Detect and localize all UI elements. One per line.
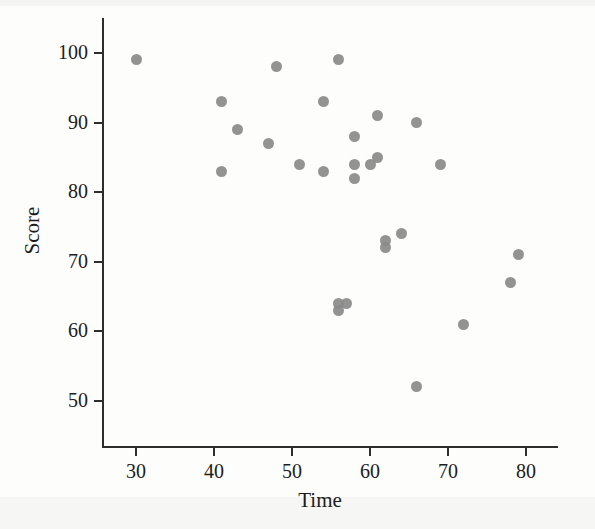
x-tick-50 bbox=[291, 447, 293, 456]
x-tick-label-30: 30 bbox=[113, 461, 159, 481]
data-point bbox=[216, 96, 227, 107]
data-point bbox=[294, 159, 305, 170]
data-point bbox=[411, 117, 422, 128]
y-tick-70 bbox=[94, 261, 103, 263]
y-tick-label-60: 60 bbox=[42, 320, 88, 340]
y-tick-label-100: 100 bbox=[42, 42, 88, 62]
data-point bbox=[333, 54, 344, 65]
data-point bbox=[263, 138, 274, 149]
data-point bbox=[271, 61, 282, 72]
data-point bbox=[318, 96, 329, 107]
y-tick-label-50: 50 bbox=[42, 390, 88, 410]
data-point bbox=[513, 249, 524, 260]
x-tick-label-50: 50 bbox=[269, 461, 315, 481]
x-axis-line bbox=[102, 446, 558, 448]
data-point bbox=[349, 173, 360, 184]
data-point bbox=[349, 131, 360, 142]
y-axis-title: Score bbox=[20, 181, 45, 281]
scatter-plot-figure: 1009080706050 304050607080 Score Time bbox=[0, 0, 595, 529]
y-tick-label-90: 90 bbox=[42, 112, 88, 132]
x-tick-70 bbox=[447, 447, 449, 456]
x-tick-label-40: 40 bbox=[191, 461, 237, 481]
data-point bbox=[131, 54, 142, 65]
data-point bbox=[435, 159, 446, 170]
data-point bbox=[232, 124, 243, 135]
x-tick-label-60: 60 bbox=[347, 461, 393, 481]
y-tick-100 bbox=[94, 52, 103, 54]
x-tick-60 bbox=[369, 447, 371, 456]
x-axis-title: Time bbox=[260, 488, 380, 513]
plot-area: 1009080706050 304050607080 Score Time bbox=[0, 0, 595, 529]
data-point bbox=[458, 319, 469, 330]
data-point bbox=[372, 110, 383, 121]
data-point bbox=[380, 242, 391, 253]
y-tick-label-70: 70 bbox=[42, 251, 88, 271]
x-tick-label-80: 80 bbox=[503, 461, 549, 481]
y-tick-50 bbox=[94, 400, 103, 402]
x-tick-40 bbox=[213, 447, 215, 456]
y-tick-label-80: 80 bbox=[42, 181, 88, 201]
data-point bbox=[372, 152, 383, 163]
data-point bbox=[349, 159, 360, 170]
data-point bbox=[411, 381, 422, 392]
x-tick-label-70: 70 bbox=[425, 461, 471, 481]
y-axis-line bbox=[102, 18, 104, 448]
data-point bbox=[341, 298, 352, 309]
x-tick-30 bbox=[135, 447, 137, 456]
x-tick-80 bbox=[525, 447, 527, 456]
y-tick-80 bbox=[94, 191, 103, 193]
data-point bbox=[505, 277, 516, 288]
data-point bbox=[318, 166, 329, 177]
data-point bbox=[216, 166, 227, 177]
y-tick-60 bbox=[94, 330, 103, 332]
data-point bbox=[396, 228, 407, 239]
y-tick-90 bbox=[94, 122, 103, 124]
